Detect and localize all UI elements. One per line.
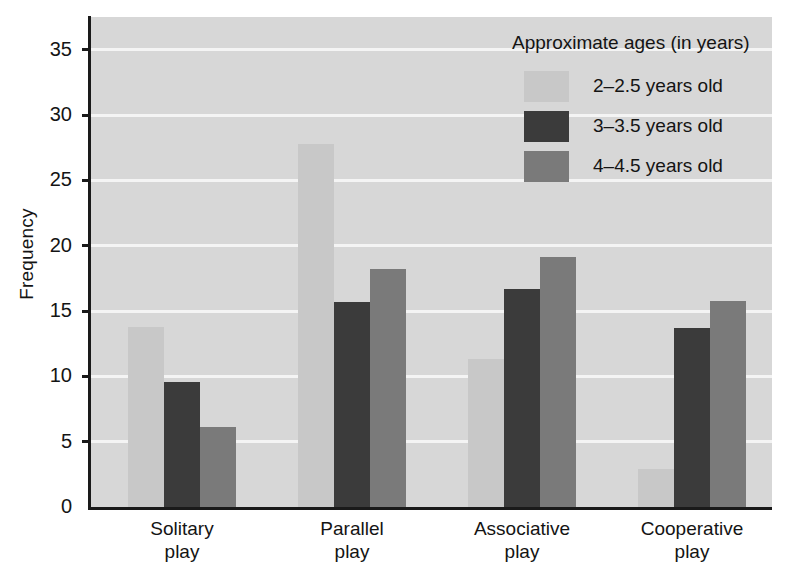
legend-entry: 4–4.5 years old <box>506 146 792 186</box>
bar <box>504 289 540 507</box>
y-tick-label: 0 <box>26 496 72 516</box>
gridline <box>91 244 772 247</box>
bar <box>334 302 370 507</box>
y-tick-mark <box>82 440 91 443</box>
x-axis-line <box>88 507 772 510</box>
y-tick-mark <box>82 48 91 51</box>
bar <box>674 328 710 507</box>
legend: Approximate ages (in years) 2–2.5 years … <box>506 32 792 186</box>
legend-label: 2–2.5 years old <box>593 75 723 97</box>
y-tick-label: 10 <box>26 365 72 385</box>
bar <box>468 359 504 507</box>
legend-swatch <box>524 111 569 142</box>
legend-entries: 2–2.5 years old3–3.5 years old4–4.5 year… <box>506 66 792 186</box>
gridline <box>91 310 772 313</box>
x-category-label: Parallel play <box>262 517 442 563</box>
bar <box>638 469 674 507</box>
legend-entry: 3–3.5 years old <box>506 106 792 146</box>
y-tick-mark <box>82 244 91 247</box>
bar <box>710 301 746 507</box>
legend-swatch <box>524 71 569 102</box>
bar <box>200 427 236 507</box>
y-tick-label: 20 <box>26 235 72 255</box>
y-tick-label: 35 <box>26 39 72 59</box>
legend-title: Approximate ages (in years) <box>512 32 792 54</box>
bar <box>164 382 200 507</box>
x-category-label: Associative play <box>432 517 612 563</box>
legend-swatch <box>524 151 569 182</box>
y-tick-label: 30 <box>26 104 72 124</box>
bar-chart: Frequency 05101520253035 Solitary playPa… <box>0 0 801 566</box>
bar <box>298 144 334 507</box>
legend-entry: 2–2.5 years old <box>506 66 792 106</box>
y-tick-label: 5 <box>26 431 72 451</box>
y-tick-label: 15 <box>26 300 72 320</box>
y-tick-label: 25 <box>26 169 72 189</box>
gridline <box>91 375 772 378</box>
x-category-label: Solitary play <box>92 517 272 563</box>
y-tick-mark <box>82 375 91 378</box>
y-tick-mark <box>82 114 91 117</box>
legend-label: 3–3.5 years old <box>593 115 723 137</box>
bar <box>370 269 406 507</box>
bar <box>128 327 164 507</box>
y-tick-mark <box>82 179 91 182</box>
y-tick-mark <box>82 310 91 313</box>
legend-label: 4–4.5 years old <box>593 155 723 177</box>
bar <box>540 257 576 507</box>
x-category-label: Cooperative play <box>602 517 782 563</box>
